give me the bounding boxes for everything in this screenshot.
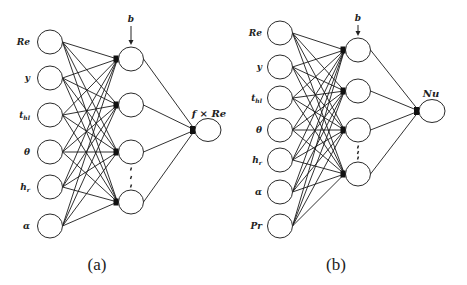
input-node <box>38 140 63 164</box>
ellipsis-dot <box>131 176 132 179</box>
hidden-node <box>346 79 371 103</box>
arrowhead-icon <box>129 40 134 45</box>
bias-label: b <box>128 14 134 24</box>
panel-caption: (b) <box>326 255 346 274</box>
output-label: f × Re <box>191 108 226 119</box>
connection-edge <box>63 42 118 59</box>
input-label: thl <box>251 93 263 104</box>
input-node <box>268 148 293 172</box>
input-label: α <box>255 187 262 197</box>
ellipsis-dot <box>358 146 359 149</box>
input-label: y <box>24 73 31 83</box>
panel-a-network: Reythlθhrαbf × Re(a) <box>16 14 226 274</box>
connection-edge <box>63 59 118 78</box>
summation-junction <box>341 127 346 134</box>
input-label: y <box>256 62 263 72</box>
input-node <box>268 180 293 204</box>
input-node <box>268 21 293 45</box>
connection-edge <box>293 33 345 174</box>
input-node <box>268 86 293 110</box>
input-node <box>38 30 63 54</box>
hidden-node <box>346 162 371 186</box>
connection-edge <box>63 202 118 226</box>
ellipsis-dot <box>131 168 132 171</box>
connection-edge <box>371 50 420 111</box>
summation-junction <box>341 88 346 95</box>
hidden-node <box>346 118 371 142</box>
hidden-node <box>346 38 371 62</box>
input-label: Pr <box>249 221 263 231</box>
input-label: θ <box>24 147 30 157</box>
panel-b-network: ReythlθhrαPrbNu(b) <box>248 13 445 274</box>
ellipsis-dot <box>358 157 359 160</box>
input-node <box>268 214 293 238</box>
input-node <box>38 66 63 90</box>
hidden-node <box>119 140 144 164</box>
panel-caption: (a) <box>88 255 107 274</box>
input-node <box>38 103 63 127</box>
input-label: Re <box>248 28 262 38</box>
summation-junction <box>114 102 119 109</box>
input-label: hr <box>252 155 263 166</box>
summation-junction <box>414 107 419 115</box>
input-label: thl <box>19 110 31 121</box>
ellipsis-dot <box>358 151 359 154</box>
summation-junction <box>341 171 346 178</box>
hidden-node <box>119 190 144 214</box>
connection-edge <box>144 59 196 130</box>
connection-edge <box>371 91 420 111</box>
connection-edge <box>63 59 118 226</box>
connection-edge <box>293 98 345 174</box>
bias-label: b <box>355 13 361 23</box>
output-label: Nu <box>422 88 439 99</box>
input-label: Re <box>16 37 30 47</box>
input-label: hr <box>20 182 31 193</box>
neural-network-diagram: Reythlθhrαbf × Re(a) ReythlθhrαPrbNu(b) <box>0 0 467 285</box>
connection-edge <box>63 152 118 187</box>
connection-edge <box>144 105 196 130</box>
input-node <box>268 55 293 79</box>
summation-junction <box>114 149 119 156</box>
input-node <box>38 175 63 199</box>
output-node <box>195 119 221 142</box>
input-node <box>38 214 63 238</box>
input-label: α <box>23 221 30 231</box>
connection-edge <box>63 78 118 105</box>
input-label: θ <box>256 125 262 135</box>
summation-junction <box>341 47 346 54</box>
summation-junction <box>114 56 119 63</box>
input-node <box>268 118 293 142</box>
hidden-node <box>119 93 144 117</box>
arrowhead-icon <box>356 31 361 36</box>
output-node <box>419 100 445 123</box>
summation-junction <box>190 126 195 134</box>
summation-junction <box>114 199 119 206</box>
connection-edge <box>293 50 345 67</box>
hidden-node <box>119 47 144 71</box>
ellipsis-dot <box>131 185 132 188</box>
